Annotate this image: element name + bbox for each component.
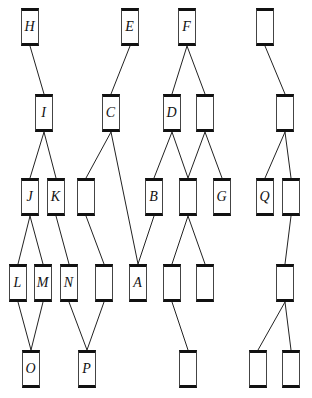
node-d: D <box>163 94 181 132</box>
edge-D-B <box>154 132 172 178</box>
node-label: E <box>125 20 134 34</box>
edge-u3b-u4b <box>172 216 188 264</box>
node-unlabeled <box>196 94 214 132</box>
node-unlabeled <box>179 350 197 388</box>
node-label: P <box>82 362 91 376</box>
node-unlabeled <box>77 178 95 216</box>
node-unlabeled <box>249 350 267 388</box>
node-label: G <box>216 190 226 204</box>
edge-u1-u2b <box>265 46 285 94</box>
node-label: C <box>106 106 115 120</box>
node-o: O <box>22 350 40 388</box>
edge-F-D <box>172 46 187 94</box>
edge-K-N <box>56 216 69 264</box>
node-unlabeled <box>282 350 300 388</box>
node-h: H <box>21 8 39 46</box>
node-unlabeled <box>276 264 294 302</box>
node-label: I <box>41 106 46 120</box>
node-label: H <box>24 20 34 34</box>
node-a: A <box>129 264 147 302</box>
edge-J-L <box>18 216 30 264</box>
node-f: F <box>178 8 196 46</box>
node-i: I <box>35 94 53 132</box>
node-label: Q <box>259 190 269 204</box>
edge-I-J <box>30 132 44 178</box>
node-l: L <box>9 264 27 302</box>
node-label: K <box>51 190 60 204</box>
diagram-canvas: HEFICDJKBGQLMNAOP <box>0 0 312 398</box>
node-label: A <box>133 276 142 290</box>
node-e: E <box>121 8 139 46</box>
node-unlabeled <box>256 8 274 46</box>
edge-u3c-u4d <box>285 216 291 264</box>
node-unlabeled <box>95 264 113 302</box>
node-label: O <box>25 362 35 376</box>
node-label: L <box>14 276 22 290</box>
node-b: B <box>145 178 163 216</box>
node-c: C <box>102 94 120 132</box>
node-p: P <box>78 350 96 388</box>
node-m: M <box>34 264 52 302</box>
node-label: D <box>166 106 176 120</box>
node-label: M <box>37 276 49 290</box>
node-unlabeled <box>196 264 214 302</box>
edge-M-O <box>31 302 43 350</box>
edge-I-K <box>44 132 56 178</box>
node-label: B <box>149 190 158 204</box>
edge-u4d-u5c <box>285 302 291 350</box>
node-k: K <box>47 178 65 216</box>
edge-H-I <box>30 46 44 94</box>
edge-E-C <box>111 46 130 94</box>
node-g: G <box>213 178 231 216</box>
node-q: Q <box>256 178 274 216</box>
node-unlabeled <box>179 178 197 216</box>
edge-D-u3b <box>172 132 188 178</box>
edge-u2b-Q <box>265 132 285 178</box>
edge-J-M <box>30 216 43 264</box>
edge-u4d-u5b <box>258 302 285 350</box>
node-unlabeled <box>276 94 294 132</box>
node-label: N <box>64 276 73 290</box>
node-j: J <box>21 178 39 216</box>
node-unlabeled <box>282 178 300 216</box>
edge-u2b-u3c <box>285 132 291 178</box>
edge-u2a-G <box>205 132 222 178</box>
edge-u3b-u4c <box>188 216 205 264</box>
edge-L-O <box>18 302 31 350</box>
node-label: F <box>182 20 191 34</box>
node-unlabeled <box>163 264 181 302</box>
edge-C-A <box>111 132 138 264</box>
edge-B-A <box>138 216 154 264</box>
node-label: J <box>26 190 32 204</box>
edge-u4a-P <box>87 302 104 350</box>
edge-F-u2a <box>187 46 205 94</box>
node-n: N <box>60 264 78 302</box>
edge-u2a-u3b <box>188 132 205 178</box>
edge-N-P <box>69 302 87 350</box>
edge-u4b-u5a <box>172 302 188 350</box>
edge-u3a-u4a <box>86 216 104 264</box>
edge-C-u3a <box>86 132 111 178</box>
